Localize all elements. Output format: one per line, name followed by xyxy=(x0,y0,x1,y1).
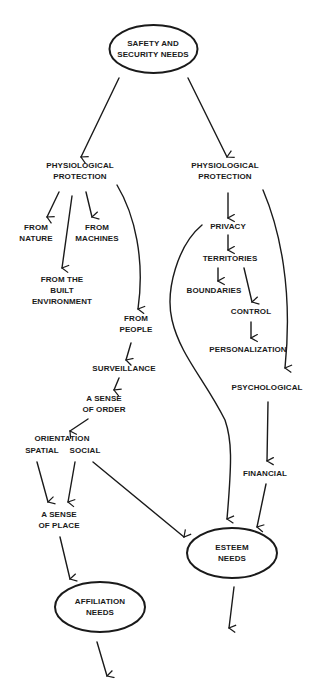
node-text: AFFILIATION xyxy=(75,596,125,607)
node-affiliation-needs: AFFILIATION NEEDS xyxy=(75,596,125,618)
node-text: SURVEILLANCE xyxy=(92,363,155,374)
node-text: SPATIAL xyxy=(25,445,59,456)
node-text: SOCIAL xyxy=(70,445,101,456)
node-surveillance: SURVEILLANCE xyxy=(92,363,155,374)
node-text: A SENSE xyxy=(82,393,125,404)
edge-territories-control xyxy=(244,268,252,302)
edge-psychological-financial xyxy=(267,402,268,461)
node-text: SAFETY AND xyxy=(117,38,189,49)
edge-phys-nature xyxy=(47,192,59,217)
node-territories: TERRITORIES xyxy=(203,253,258,264)
edge-physright-psychological xyxy=(263,190,287,368)
node-text: PHYSIOLOGICAL xyxy=(46,160,114,171)
edge-phys-machines xyxy=(86,192,92,217)
edge-people-surveillance xyxy=(126,343,131,360)
node-from-built-environment: FROM THE BUILT ENVIRONMENT xyxy=(32,274,92,307)
node-control: CONTROL xyxy=(231,306,271,317)
edge-phys-people xyxy=(117,185,140,309)
edge-safety-physright xyxy=(188,78,227,157)
node-text: NEEDS xyxy=(215,553,249,564)
node-text: PROTECTION xyxy=(191,171,259,182)
edge-affiliation-out xyxy=(97,642,107,676)
node-from-nature: FROM NATURE xyxy=(19,222,52,244)
node-psychological: PSYCHOLOGICAL xyxy=(231,382,302,393)
edge-place-affiliation xyxy=(60,537,70,579)
node-text: ESTEEM xyxy=(215,542,249,553)
node-text: NATURE xyxy=(19,233,52,244)
node-text: TERRITORIES xyxy=(203,253,258,264)
node-personalization: PERSONALIZATION xyxy=(209,344,286,355)
node-from-people: FROM PEOPLE xyxy=(119,313,152,335)
node-text: FROM xyxy=(119,313,152,324)
edge-order-orientation xyxy=(70,419,88,431)
node-text: BUILT xyxy=(32,285,92,296)
edge-surveillance-order xyxy=(114,378,119,390)
node-text: PROTECTION xyxy=(46,171,114,182)
node-sense-of-place: A SENSE OF PLACE xyxy=(38,509,79,531)
node-financial: FINANCIAL xyxy=(243,468,287,479)
node-text: PRIVACY xyxy=(210,221,246,232)
node-boundaries: BOUNDARIES xyxy=(187,285,242,296)
node-text: PSYCHOLOGICAL xyxy=(231,382,302,393)
edge-financial-esteem xyxy=(257,484,266,527)
node-safety-security-needs: SAFETY AND SECURITY NEEDS xyxy=(117,38,189,60)
node-text: PEOPLE xyxy=(119,324,152,335)
node-physiological-protection-left: PHYSIOLOGICAL PROTECTION xyxy=(46,160,114,182)
node-text: A SENSE xyxy=(38,509,79,520)
edge-phys-built xyxy=(62,196,72,268)
node-social: SOCIAL xyxy=(70,445,101,456)
edge-social-esteem xyxy=(93,462,184,537)
node-text: FROM xyxy=(19,222,52,233)
node-text: OF PLACE xyxy=(38,520,79,531)
node-spatial: SPATIAL xyxy=(25,445,59,456)
node-text: FROM xyxy=(75,222,118,233)
node-text: FINANCIAL xyxy=(243,468,287,479)
edge-privacy-esteem xyxy=(170,225,230,519)
node-text: CONTROL xyxy=(231,306,271,317)
node-sense-of-order: A SENSE OF ORDER xyxy=(82,393,125,415)
node-text: PERSONALIZATION xyxy=(209,344,286,355)
node-text: ENVIRONMENT xyxy=(32,296,92,307)
node-text: NEEDS xyxy=(75,607,125,618)
node-orientation: ORIENTATION xyxy=(34,433,89,444)
edge-esteem-out xyxy=(229,587,234,628)
node-physiological-protection-right: PHYSIOLOGICAL PROTECTION xyxy=(191,160,259,182)
node-privacy: PRIVACY xyxy=(210,221,246,232)
node-esteem-needs: ESTEEM NEEDS xyxy=(215,542,249,564)
node-text: BOUNDARIES xyxy=(187,285,242,296)
node-text: PHYSIOLOGICAL xyxy=(191,160,259,171)
node-text: MACHINES xyxy=(75,233,118,244)
edge-spatial-place xyxy=(37,462,48,502)
edge-safety-physleft xyxy=(81,78,119,157)
node-from-machines: FROM MACHINES xyxy=(75,222,118,244)
node-text: OF ORDER xyxy=(82,404,125,415)
node-text: ORIENTATION xyxy=(34,433,89,444)
node-text: FROM THE xyxy=(32,274,92,285)
edge-social-place xyxy=(68,462,75,502)
diagram-canvas: SAFETY AND SECURITY NEEDS PHYSIOLOGICAL … xyxy=(0,0,314,699)
node-text: SECURITY NEEDS xyxy=(117,49,189,60)
